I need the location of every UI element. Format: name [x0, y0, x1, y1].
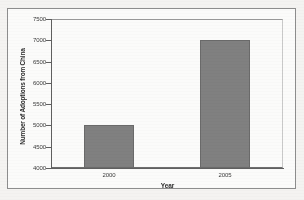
y-axis-tick-label: 6000: [6, 79, 46, 86]
y-axis-tick-label: 7000: [6, 37, 46, 44]
y-axis-tick-mark: [46, 83, 51, 84]
y-axis-tick-label: 4000: [6, 165, 46, 172]
y-axis-line: [51, 19, 52, 169]
y-axis-tick-mark: [46, 168, 51, 169]
bar-chart-figure: 40004500500055006000650070007500 2000200…: [0, 0, 304, 200]
x-axis-line: [51, 168, 284, 169]
y-axis-tick-mark: [46, 125, 51, 126]
y-axis-tick-mark: [46, 19, 51, 20]
x-axis-title: Year: [51, 182, 284, 189]
bar: [84, 125, 134, 168]
y-axis-tick-mark: [46, 62, 51, 63]
y-axis-tick-label: 5000: [6, 122, 46, 129]
y-axis-title: Number of Adoptions from China: [19, 22, 26, 172]
x-axis-tick-label: 2005: [195, 172, 255, 178]
y-axis-tick-label: 6500: [6, 58, 46, 65]
x-axis-tick-label: 2000: [79, 172, 139, 178]
bar: [200, 40, 250, 168]
y-axis-tick-mark: [46, 147, 51, 148]
y-axis-tick-mark: [46, 104, 51, 105]
y-axis-tick-label: 7500: [6, 16, 46, 23]
y-axis-tick-label: 4500: [6, 143, 46, 150]
y-axis-tick-mark: [46, 40, 51, 41]
y-axis-tick-label: 5500: [6, 101, 46, 108]
